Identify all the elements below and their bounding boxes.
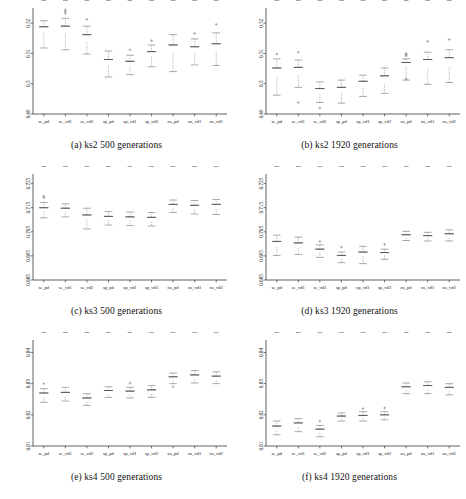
svg-text:0.84: 0.84	[25, 348, 31, 357]
figure-row-3: 0.810.820.830.84se_pdse_vd1se_vd2sp_pdsp…	[0, 332, 466, 498]
svg-text:ns_pd: ns_pd	[401, 285, 413, 290]
svg-text:0.52: 0.52	[25, 18, 31, 27]
svg-text:ns_pd: ns_pd	[401, 119, 413, 124]
svg-text:0.81: 0.81	[25, 441, 31, 450]
svg-text:0.685: 0.685	[25, 274, 31, 286]
panel-c: 0.6850.6950.7050.7150.725se_pdse_vd1se_v…	[0, 166, 233, 310]
svg-text:sp_pd: sp_pd	[336, 451, 348, 456]
svg-text:0.83: 0.83	[25, 379, 31, 388]
svg-text:sp_vd1: sp_vd1	[356, 451, 370, 456]
svg-text:0.695: 0.695	[25, 250, 31, 262]
panel-a-cell: 0.490.50.510.52se_pdse_vd1se_vd2sp_pdsp_…	[0, 0, 233, 166]
svg-text:0.725: 0.725	[258, 177, 264, 189]
panel-d-cell: 0.6850.6950.7050.7150.725se_pdse_vd1se_v…	[233, 166, 466, 332]
svg-text:0.705: 0.705	[258, 226, 264, 238]
svg-text:sp_vd2: sp_vd2	[378, 285, 392, 290]
panel-e-caption: (e) ks4 500 generations	[0, 472, 233, 482]
svg-text:se_vd1: se_vd1	[59, 451, 73, 456]
svg-text:0.82: 0.82	[25, 410, 31, 419]
panel-a: 0.490.50.510.52se_pdse_vd1se_vd2sp_pdsp_…	[0, 0, 233, 144]
svg-text:ns_vd2: ns_vd2	[443, 451, 457, 456]
svg-text:se_pd: se_pd	[271, 119, 282, 124]
panel-b: 0.490.50.510.52se_pdse_vd1se_vd2sp_pdsp_…	[233, 0, 466, 144]
svg-text:sp_vd2: sp_vd2	[378, 119, 392, 124]
svg-text:sp_vd1: sp_vd1	[356, 119, 370, 124]
svg-text:ns_vd1: ns_vd1	[421, 285, 435, 290]
svg-text:se_vd2: se_vd2	[80, 285, 94, 290]
svg-text:se_vd1: se_vd1	[292, 119, 306, 124]
figure-row-2: 0.6850.6950.7050.7150.725se_pdse_vd1se_v…	[0, 166, 466, 332]
svg-text:ns_vd1: ns_vd1	[421, 119, 435, 124]
svg-text:sp_pd: sp_pd	[336, 119, 348, 124]
svg-text:se_vd2: se_vd2	[313, 285, 327, 290]
svg-text:0.51: 0.51	[25, 48, 31, 57]
svg-text:0.5: 0.5	[258, 80, 264, 87]
panel-e-cell: 0.810.820.830.84se_pdse_vd1se_vd2sp_pdsp…	[0, 332, 233, 498]
svg-text:0.685: 0.685	[258, 274, 264, 286]
svg-text:sp_vd2: sp_vd2	[145, 451, 159, 456]
svg-text:se_pd: se_pd	[38, 119, 49, 124]
svg-text:ns_pd: ns_pd	[401, 451, 413, 456]
svg-text:ns_vd1: ns_vd1	[188, 451, 202, 456]
svg-text:ns_vd2: ns_vd2	[210, 119, 224, 124]
panel-d-caption: (d) ks3 1920 generations	[233, 306, 466, 316]
panel-d: 0.6850.6950.7050.7150.725se_pdse_vd1se_v…	[233, 166, 466, 310]
figure-row-1: 0.490.50.510.52se_pdse_vd1se_vd2sp_pdsp_…	[0, 0, 466, 166]
svg-text:se_vd2: se_vd2	[80, 451, 94, 456]
panel-f-caption: (f) ks4 1920 generations	[233, 472, 466, 482]
svg-text:ns_vd1: ns_vd1	[188, 285, 202, 290]
panel-b-cell: 0.490.50.510.52se_pdse_vd1se_vd2sp_pdsp_…	[233, 0, 466, 166]
svg-text:0.49: 0.49	[258, 109, 264, 118]
svg-text:0.5: 0.5	[25, 80, 31, 87]
svg-text:ns_vd2: ns_vd2	[443, 285, 457, 290]
svg-text:ns_pd: ns_pd	[168, 451, 180, 456]
svg-text:0.695: 0.695	[258, 250, 264, 262]
panel-c-caption: (c) ks3 500 generations	[0, 306, 233, 316]
svg-text:se_vd1: se_vd1	[59, 119, 73, 124]
panel-c-cell: 0.6850.6950.7050.7150.725se_pdse_vd1se_v…	[0, 166, 233, 332]
panel-a-caption: (a) ks2 500 generations	[0, 140, 233, 150]
svg-text:0.725: 0.725	[25, 177, 31, 189]
svg-text:0.49: 0.49	[25, 109, 31, 118]
boxplot-figure: 0.490.50.510.52se_pdse_vd1se_vd2sp_pdsp_…	[0, 0, 466, 499]
svg-text:sp_vd2: sp_vd2	[145, 285, 159, 290]
svg-text:se_vd2: se_vd2	[80, 119, 94, 124]
svg-text:0.52: 0.52	[258, 18, 264, 27]
svg-text:sp_pd: sp_pd	[103, 451, 115, 456]
svg-text:se_pd: se_pd	[38, 451, 49, 456]
svg-text:0.51: 0.51	[258, 48, 264, 57]
svg-text:sp_vd2: sp_vd2	[145, 119, 159, 124]
svg-text:ns_vd1: ns_vd1	[188, 119, 202, 124]
svg-text:se_vd2: se_vd2	[313, 451, 327, 456]
svg-text:0.81: 0.81	[258, 441, 264, 450]
svg-text:ns_vd2: ns_vd2	[210, 285, 224, 290]
panel-f: 0.810.820.830.84se_pdse_vd1se_vd2sp_pdsp…	[233, 332, 466, 476]
svg-text:ns_vd2: ns_vd2	[443, 119, 457, 124]
svg-text:se_vd2: se_vd2	[313, 119, 327, 124]
svg-text:sp_pd: sp_pd	[336, 285, 348, 290]
svg-text:ns_vd2: ns_vd2	[210, 451, 224, 456]
svg-text:sp_vd1: sp_vd1	[356, 285, 370, 290]
svg-text:0.715: 0.715	[258, 201, 264, 213]
svg-text:ns_pd: ns_pd	[168, 119, 180, 124]
svg-text:se_vd1: se_vd1	[292, 285, 306, 290]
svg-text:se_vd1: se_vd1	[292, 451, 306, 456]
svg-text:sp_vd1: sp_vd1	[123, 119, 137, 124]
svg-text:se_pd: se_pd	[271, 451, 282, 456]
panel-b-caption: (b) ks2 1920 generations	[233, 140, 466, 150]
panel-f-cell: 0.810.820.830.84se_pdse_vd1se_vd2sp_pdsp…	[233, 332, 466, 498]
svg-text:sp_pd: sp_pd	[103, 285, 115, 290]
panel-e: 0.810.820.830.84se_pdse_vd1se_vd2sp_pdsp…	[0, 332, 233, 476]
svg-text:sp_vd1: sp_vd1	[123, 285, 137, 290]
svg-text:ns_pd: ns_pd	[168, 285, 180, 290]
svg-text:0.83: 0.83	[258, 379, 264, 388]
svg-text:0.82: 0.82	[258, 410, 264, 419]
svg-text:sp_vd2: sp_vd2	[378, 451, 392, 456]
svg-text:se_vd1: se_vd1	[59, 285, 73, 290]
svg-text:se_pd: se_pd	[38, 285, 49, 290]
svg-text:ns_vd1: ns_vd1	[421, 451, 435, 456]
svg-text:sp_pd: sp_pd	[103, 119, 115, 124]
svg-text:se_pd: se_pd	[271, 285, 282, 290]
svg-text:0.84: 0.84	[258, 348, 264, 357]
svg-text:0.715: 0.715	[25, 201, 31, 213]
